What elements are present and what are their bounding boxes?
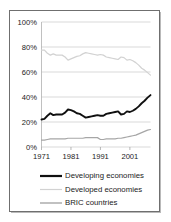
gridlines: [42, 22, 151, 147]
plot-wrapper: 0%20%40%60%80%100% 1971198119912001 Deve…: [0, 0, 171, 222]
x-tick-label-1981: 1981: [63, 152, 80, 161]
legend-label: Developed economies: [65, 185, 142, 194]
y-tick-label-40: 40%: [22, 93, 37, 102]
series-line-developing-economies: [42, 95, 151, 119]
legend-label: Developing economies: [65, 171, 144, 180]
legend-label: BRIC countries: [65, 198, 118, 207]
y-axis-tick-labels: 0%20%40%60%80%100%: [18, 18, 38, 152]
tick-marks: [42, 147, 130, 150]
x-tick-label-1971: 1971: [33, 152, 50, 161]
y-tick-label-0: 0%: [26, 143, 37, 152]
legend-item-developing-economies[interactable]: Developing economies: [40, 171, 144, 180]
y-tick-label-60: 60%: [22, 68, 37, 77]
x-axis-tick-labels: 1971198119912001: [33, 152, 138, 161]
legend-item-developed-economies[interactable]: Developed economies: [40, 185, 142, 194]
chart-figure: 0%20%40%60%80%100% 1971198119912001 Deve…: [0, 0, 171, 222]
data-series-group: [42, 50, 151, 140]
x-tick-label-1991: 1991: [92, 152, 109, 161]
series-line-bric-countries: [42, 130, 151, 141]
line-chart: 0%20%40%60%80%100% 1971198119912001 Deve…: [0, 0, 171, 222]
chart-legend: Developing economiesDeveloped economiesB…: [40, 171, 144, 207]
y-tick-label-100: 100%: [18, 18, 38, 27]
y-tick-label-80: 80%: [22, 43, 37, 52]
legend-item-bric-countries[interactable]: BRIC countries: [40, 198, 118, 207]
x-tick-label-2001: 2001: [121, 152, 138, 161]
y-tick-label-20: 20%: [22, 118, 37, 127]
series-line-developed-economies: [42, 50, 151, 75]
